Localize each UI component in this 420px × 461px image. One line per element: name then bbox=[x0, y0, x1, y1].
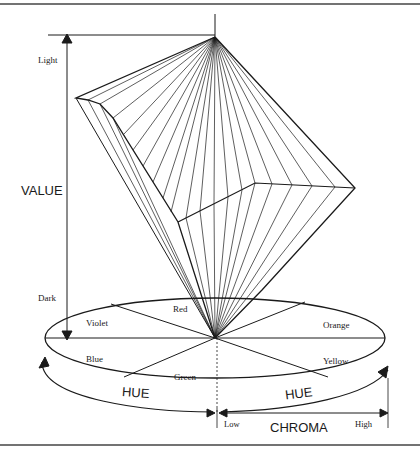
chroma-axis-label: CHROMA bbox=[270, 420, 328, 435]
hue-label-green: Green bbox=[174, 372, 196, 382]
hue-label-right: HUE bbox=[284, 384, 313, 402]
hue-label-violet: Violet bbox=[86, 318, 108, 328]
hue-arrow-left-icon bbox=[39, 357, 49, 368]
hue-label-yellow: Yellow bbox=[323, 356, 349, 366]
munsell-diagram: Light VALUE Dark Red Orange Yellow Green… bbox=[0, 0, 420, 461]
chroma-high-label: High bbox=[355, 419, 373, 429]
value-light-label: Light bbox=[38, 55, 58, 65]
hue-label-blue: Blue bbox=[86, 354, 103, 364]
value-dark-label: Dark bbox=[38, 293, 56, 303]
value-arrow-down-icon bbox=[62, 331, 72, 340]
hue-label-orange: Orange bbox=[323, 320, 350, 330]
value-axis-label: VALUE bbox=[21, 183, 63, 198]
chroma-low-label: Low bbox=[224, 419, 240, 429]
hue-label-red: Red bbox=[173, 304, 188, 314]
chroma-arrow-left-icon bbox=[219, 409, 227, 417]
hue-arrow-right-icon bbox=[378, 366, 388, 378]
hue-label-left: HUE bbox=[121, 384, 150, 401]
hue-arrow-meet-icon bbox=[207, 409, 215, 417]
color-solid bbox=[76, 37, 355, 338]
chroma-arrow-right-icon bbox=[380, 409, 388, 417]
